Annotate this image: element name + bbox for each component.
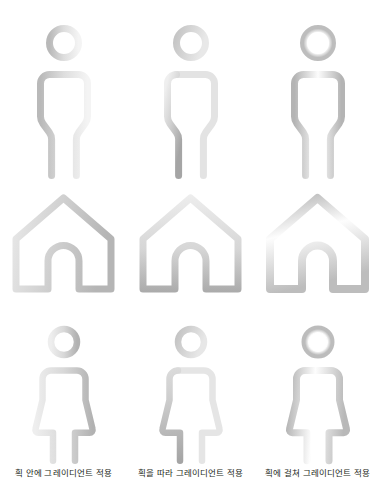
house-icon bbox=[138, 193, 243, 295]
house-icon bbox=[265, 193, 370, 295]
house-outline bbox=[143, 198, 238, 289]
figure-head bbox=[51, 329, 77, 355]
female-figure-icon bbox=[21, 323, 107, 463]
caption-gradient-along-stroke: 획을 따라 그레이디언트 적용 bbox=[127, 465, 254, 496]
male-figure-gradient-across-stroke bbox=[254, 0, 381, 190]
figure-head bbox=[176, 29, 205, 58]
house-gradient-along-stroke bbox=[127, 190, 254, 315]
figure-body-right bbox=[176, 75, 214, 176]
female-figure-icon bbox=[275, 323, 361, 463]
figure-head bbox=[178, 329, 204, 355]
figure-body-right bbox=[178, 371, 220, 461]
figure-head bbox=[305, 329, 331, 355]
house-gradient-across-stroke bbox=[254, 190, 381, 315]
caption-text: 획 안에 그레이디언트 적용 bbox=[15, 468, 112, 479]
row-female-figures bbox=[0, 315, 381, 465]
figure-body bbox=[40, 75, 87, 176]
male-figure-gradient-along-stroke bbox=[127, 0, 254, 190]
figure-body-dress bbox=[289, 371, 346, 461]
female-figure-gradient-across-stroke bbox=[254, 315, 381, 465]
gradient-stroke-examples-grid: 획 안에 그레이디언트 적용 획을 따라 그레이디언트 적용 획에 걸쳐 그레이… bbox=[0, 0, 381, 496]
male-figure-icon bbox=[275, 22, 361, 177]
row-male-figures bbox=[0, 0, 381, 190]
house-outline bbox=[270, 198, 365, 289]
caption-text: 획을 따라 그레이디언트 적용 bbox=[138, 468, 243, 479]
female-figure-gradient-within-stroke bbox=[0, 315, 127, 465]
caption-gradient-within-stroke: 획 안에 그레이디언트 적용 bbox=[0, 465, 127, 496]
male-figure-icon bbox=[148, 22, 234, 177]
row-captions: 획 안에 그레이디언트 적용 획을 따라 그레이디언트 적용 획에 걸쳐 그레이… bbox=[0, 465, 381, 496]
row-houses bbox=[0, 190, 381, 315]
caption-text: 획에 걸쳐 그레이디언트 적용 bbox=[265, 468, 370, 479]
male-figure-gradient-within-stroke bbox=[0, 0, 127, 190]
figure-body-left bbox=[162, 371, 180, 461]
house-outline bbox=[16, 198, 111, 289]
figure-body-dress bbox=[35, 371, 92, 461]
female-figure-icon bbox=[148, 323, 234, 463]
figure-head bbox=[303, 29, 332, 58]
figure-head bbox=[49, 29, 78, 58]
figure-body-left bbox=[167, 75, 178, 176]
house-icon bbox=[11, 193, 116, 295]
female-figure-gradient-along-stroke bbox=[127, 315, 254, 465]
male-figure-icon bbox=[21, 22, 107, 177]
caption-gradient-across-stroke: 획에 걸쳐 그레이디언트 적용 bbox=[254, 465, 381, 496]
figure-body bbox=[294, 75, 341, 176]
house-gradient-within-stroke bbox=[0, 190, 127, 315]
